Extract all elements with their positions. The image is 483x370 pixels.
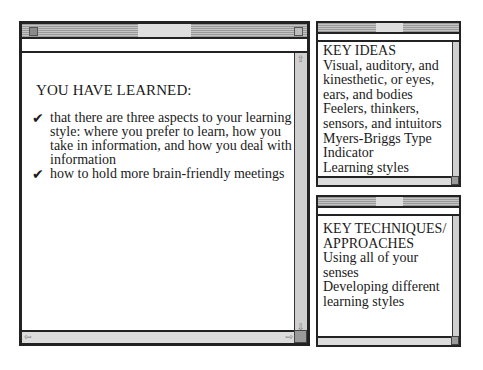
resize-grow-box[interactable]: [451, 176, 459, 185]
list-item: ✔ that there are three aspects to your l…: [32, 111, 294, 167]
learned-heading: YOU HAVE LEARNED:: [36, 82, 192, 99]
key-techniques-title-bar[interactable]: [318, 197, 459, 208]
key-ideas-content: KEY IDEAS Visual, auditory, and kinesthe…: [318, 42, 450, 180]
technique-line: learning styles: [323, 295, 453, 310]
main-title-bar[interactable]: [22, 24, 307, 39]
technique-line: senses: [323, 266, 453, 281]
horizontal-scrollbar[interactable]: ⇦ ⇨: [22, 330, 295, 343]
checkmark-icon: ✔: [32, 167, 44, 181]
bullet-line: that there are three aspects to your lea…: [50, 111, 294, 125]
key-ideas-heading: KEY IDEAS: [323, 44, 453, 59]
idea-line: sensors, and intuitors: [323, 117, 453, 132]
header-strip: [22, 39, 307, 53]
zoom-box[interactable]: [294, 27, 303, 36]
vertical-scrollbar[interactable]: ⇧ ⇩: [294, 53, 307, 333]
idea-line: Learning styles: [323, 161, 453, 176]
vertical-scrollbar[interactable]: [452, 42, 459, 180]
idea-line: Visual, auditory, and: [323, 59, 453, 74]
key-techniques-window: KEY TECHNIQUES/ APPROACHES Using all of …: [316, 195, 461, 347]
bullet-line: style: where you prefer to learn, how yo…: [50, 125, 294, 139]
title-area: [376, 197, 403, 206]
bullet-line: take in information, and how you deal wi…: [50, 139, 294, 153]
learned-list: ✔ that there are three aspects to your l…: [32, 111, 294, 181]
key-ideas-title-bar[interactable]: [318, 23, 459, 34]
key-ideas-window: KEY IDEAS Visual, auditory, and kinesthe…: [316, 21, 461, 187]
title-area: [376, 23, 403, 32]
checkmark-icon: ✔: [32, 111, 44, 125]
idea-line: kinesthetic, or eyes,: [323, 73, 453, 88]
key-techniques-heading: APPROACHES: [323, 237, 453, 252]
scroll-up-arrow-icon[interactable]: ⇧: [297, 54, 305, 64]
list-item: ✔ how to hold more brain-friendly meetin…: [32, 167, 294, 181]
horizontal-scrollbar[interactable]: [318, 336, 454, 345]
scroll-right-arrow-icon[interactable]: ⇨: [285, 332, 293, 342]
header-strip: [318, 34, 459, 42]
title-area: [138, 24, 191, 37]
main-window: YOU HAVE LEARNED: ✔ that there are three…: [19, 21, 310, 346]
idea-line: ears, and bodies: [323, 88, 453, 103]
header-strip: [318, 208, 459, 216]
technique-line: Using all of your: [323, 251, 453, 266]
key-techniques-heading: KEY TECHNIQUES/: [323, 222, 453, 237]
bullet-line: information: [50, 153, 294, 167]
resize-grow-box[interactable]: [294, 330, 307, 343]
close-box[interactable]: [29, 27, 38, 36]
idea-line: Myers-Briggs Type: [323, 132, 453, 147]
key-techniques-content: KEY TECHNIQUES/ APPROACHES Using all of …: [318, 216, 450, 340]
vertical-scrollbar[interactable]: [452, 216, 459, 340]
bullet-line: how to hold more brain-friendly meetings: [50, 167, 294, 181]
horizontal-scrollbar[interactable]: [318, 176, 454, 185]
main-content: YOU HAVE LEARNED: ✔ that there are three…: [22, 53, 295, 333]
idea-line: Feelers, thinkers,: [323, 102, 453, 117]
idea-line: Indicator: [323, 146, 453, 161]
technique-line: Developing different: [323, 280, 453, 295]
scroll-left-arrow-icon[interactable]: ⇦: [24, 332, 32, 342]
resize-grow-box[interactable]: [451, 336, 459, 345]
